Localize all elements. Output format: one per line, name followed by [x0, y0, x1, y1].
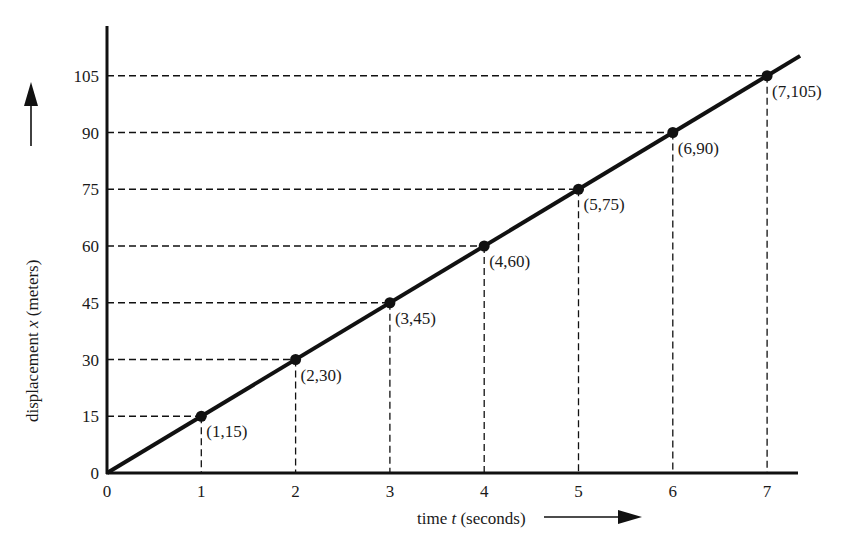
- x-tick-label: 5: [574, 482, 583, 501]
- svg-text:displacement x (meters): displacement x (meters): [23, 260, 42, 422]
- x-axis-title-text: time: [417, 509, 451, 528]
- data-point-marker: [384, 297, 395, 308]
- y-tick-label: 105: [74, 67, 100, 86]
- x-tick-label: 1: [197, 482, 206, 501]
- y-tick-label: 0: [91, 464, 100, 483]
- x-axis-arrow-icon: [544, 510, 642, 524]
- x-axis-unit: (seconds): [456, 509, 525, 528]
- data-point-label: (6,90): [678, 139, 719, 158]
- x-tick-label: 2: [291, 482, 300, 501]
- x-tick-label: 3: [386, 482, 395, 501]
- data-point-marker: [479, 241, 490, 252]
- data-point-marker: [762, 70, 773, 81]
- axes: [106, 26, 798, 474]
- y-axis-title-text: displacement: [23, 328, 42, 422]
- data-point-label: (3,45): [395, 309, 436, 328]
- data-point-label: (1,15): [206, 422, 247, 441]
- y-tick-label: 60: [82, 237, 99, 256]
- data-point-marker: [667, 127, 678, 138]
- y-axis-title: displacement x (meters): [23, 82, 42, 422]
- chart-canvas: 0153045607590105 01234567 (1,15)(2,30)(3…: [0, 0, 858, 542]
- data-line: [107, 56, 800, 473]
- y-axis-unit: (meters): [23, 260, 42, 321]
- y-tick-label: 45: [82, 294, 99, 313]
- data-point-label: (2,30): [301, 366, 342, 385]
- x-tick-label: 0: [103, 482, 112, 501]
- y-tick-label: 15: [82, 407, 99, 426]
- x-tick-labels: 01234567: [103, 482, 772, 501]
- y-tick-labels: 0153045607590105: [74, 67, 100, 483]
- x-tick-label: 4: [480, 482, 489, 501]
- data-point-label: (4,60): [489, 252, 530, 271]
- y-tick-label: 30: [82, 351, 99, 370]
- data-point-marker: [573, 184, 584, 195]
- data-point-marker: [290, 354, 301, 365]
- svg-text:time t (seconds): time t (seconds): [417, 509, 526, 528]
- data-point-labels: (1,15)(2,30)(3,45)(4,60)(5,75)(6,90)(7,1…: [206, 82, 821, 442]
- data-point-label: (5,75): [584, 195, 625, 214]
- x-tick-label: 6: [669, 482, 678, 501]
- data-point-label: (7,105): [772, 82, 822, 101]
- displacement-time-chart: 0153045607590105 01234567 (1,15)(2,30)(3…: [0, 0, 858, 542]
- y-tick-label: 75: [82, 180, 99, 199]
- data-point-marker: [196, 411, 207, 422]
- y-axis-arrow-icon: [24, 82, 38, 146]
- x-axis-title: time t (seconds): [417, 509, 642, 528]
- y-tick-label: 90: [82, 124, 99, 143]
- x-tick-label: 7: [763, 482, 772, 501]
